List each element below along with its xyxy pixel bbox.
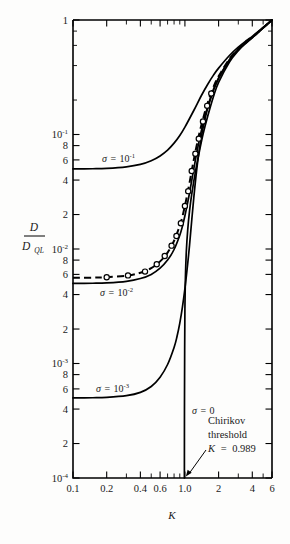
chirikov-value: 0.989 <box>232 443 256 454</box>
data-point-marker <box>209 91 214 96</box>
data-point-marker <box>182 203 187 208</box>
chirikov-k-symbol: K <box>207 443 216 454</box>
x-tick-label: 4 <box>250 483 256 494</box>
figure-root: 110-1864210-2864210-3864210-4 0.10.20.40… <box>0 0 290 544</box>
chirikov-line1: Chirikov <box>208 415 246 426</box>
curve-label-sigma-1e-3: σ=10-3 <box>96 382 130 394</box>
y-tick-label: 2 <box>63 438 68 449</box>
x-tick-label: 2 <box>216 483 221 494</box>
data-point-marker <box>186 189 191 194</box>
curve-label-sigma-1e-2: σ=10-2 <box>100 286 133 298</box>
y-tick-label: 8 <box>63 140 68 151</box>
data-point-marker <box>162 253 167 258</box>
y-tick-label: 8 <box>63 255 68 266</box>
y-tick-label: 6 <box>63 269 68 280</box>
x-tick-label: 0.1 <box>66 483 79 494</box>
chirikov-arrow-shaft <box>190 450 206 473</box>
data-point-marker <box>193 151 198 156</box>
data-point-marker <box>142 269 147 274</box>
chirikov-annotation: Chirikov threshold K = 0.989 <box>186 415 256 477</box>
y-tick-label: 8 <box>63 369 68 380</box>
y-axis-title-denominator: D QL <box>21 236 44 255</box>
curve-label-sigma-1e-1: σ=10-1 <box>102 152 135 164</box>
y-axis-tick-group <box>73 20 80 478</box>
x-tick-label: 0.4 <box>134 483 148 494</box>
chirikov-line3: K = 0.989 <box>207 443 256 454</box>
x-axis-top-tick-group <box>73 20 272 27</box>
data-marker-group <box>104 91 214 280</box>
y-axis-tick-labels: 110-1864210-2864210-3864210-4 <box>52 15 69 484</box>
y-tick-label: 1 <box>63 15 68 26</box>
data-point-marker <box>205 103 210 108</box>
x-tick-label: 6 <box>269 483 274 494</box>
data-point-marker <box>196 136 201 141</box>
curve-sigma-1e-3 <box>73 20 272 398</box>
data-point-marker <box>125 273 130 278</box>
y-axis-right-tick-group <box>266 20 273 478</box>
y-tick-label: 2 <box>63 324 68 335</box>
y-tick-label: 4 <box>63 175 69 186</box>
x-axis-tick-group <box>73 472 272 479</box>
y-tick-label: 4 <box>63 404 69 415</box>
y-tick-label: 2 <box>63 209 68 220</box>
y-tick-label: 6 <box>63 384 68 395</box>
y-tick-label: 4 <box>63 289 69 300</box>
data-point-marker <box>200 119 205 124</box>
chirikov-equals: = <box>221 443 227 454</box>
curve-theory-dashed <box>73 20 272 278</box>
curve-label-group: σ=10-1σ=10-2σ=10-3σ=0 <box>96 152 215 416</box>
y-axis-title: D D QL <box>21 221 45 255</box>
x-tick-label: 1.0 <box>178 483 191 494</box>
curve-group <box>73 20 272 478</box>
x-tick-label: 0.2 <box>100 483 113 494</box>
y-tick-label: 10-4 <box>52 472 69 484</box>
log-log-plot-canvas: 110-1864210-2864210-3864210-4 0.10.20.40… <box>0 0 290 544</box>
y-tick-label: 10-2 <box>52 243 69 255</box>
x-tick-label: 0.6 <box>154 483 167 494</box>
y-tick-label: 10-1 <box>52 128 69 140</box>
y-axis-title-numerator: D <box>29 221 39 233</box>
data-point-marker <box>174 233 179 238</box>
curve-sigma-1e-1 <box>73 20 272 169</box>
y-tick-label: 10-3 <box>52 357 69 369</box>
curve-sigma-0 <box>184 20 272 478</box>
data-point-marker <box>104 275 109 280</box>
data-point-marker <box>178 221 183 226</box>
x-axis-title: K <box>167 509 176 521</box>
data-point-marker <box>189 168 194 173</box>
plot-frame <box>73 20 272 478</box>
data-point-marker <box>154 262 159 267</box>
data-point-marker <box>169 243 174 248</box>
x-axis-tick-labels: 0.10.20.40.61.0246 <box>66 483 274 494</box>
chirikov-line2: threshold <box>208 429 248 440</box>
axis-frame-lines <box>73 20 272 478</box>
y-tick-label: 6 <box>63 155 68 166</box>
